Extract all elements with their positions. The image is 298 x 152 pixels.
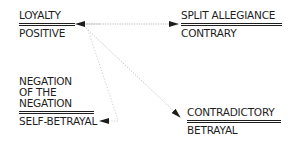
node-loyalty: LOYALTY POSITIVE [19, 10, 75, 39]
node-split-allegiance: SPLIT ALLEGIANCE CONTRARY [181, 10, 282, 39]
double-line-divider [19, 23, 75, 26]
arrow-loyalty-contradictory [86, 28, 180, 117]
double-line-divider [19, 111, 94, 114]
negation-label-line-3: NEGATION [19, 98, 94, 109]
split-allegiance-label: SPLIT ALLEGIANCE [181, 10, 282, 21]
node-contradictory: CONTRADICTORY BETRAYAL [187, 107, 281, 136]
self-betrayal-label: SELF-BETRAYAL [19, 116, 94, 127]
betrayal-label: BETRAYAL [187, 125, 281, 136]
contrary-label: CONTRARY [181, 28, 282, 39]
loyalty-label: LOYALTY [19, 10, 75, 21]
positive-label: POSITIVE [19, 28, 75, 39]
contradictory-label: CONTRADICTORY [187, 107, 281, 118]
node-negation-of-the-negation: NEGATION OF THE NEGATION SELF-BETRAYAL [19, 76, 94, 127]
double-line-divider [181, 23, 282, 26]
double-line-divider [187, 120, 281, 123]
